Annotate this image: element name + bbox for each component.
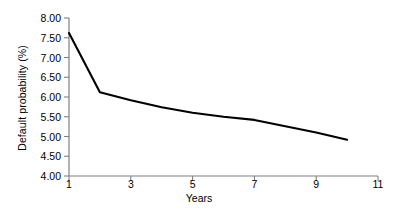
x-tick-label: 5 [181, 179, 205, 190]
y-axis-ticks [64, 18, 69, 176]
series-line-default-probability [69, 33, 347, 140]
x-tick-label: 9 [304, 179, 328, 190]
x-tick-label: 11 [366, 179, 390, 190]
x-tick-label: 7 [242, 179, 266, 190]
x-axis-ticks [69, 176, 378, 181]
x-tick-label: 1 [57, 179, 81, 190]
default-probability-chart: Default probability (%) 8.00 7.50 7.00 6… [0, 0, 398, 218]
x-axis-title: Years [0, 192, 398, 204]
x-tick-label: 3 [119, 179, 143, 190]
